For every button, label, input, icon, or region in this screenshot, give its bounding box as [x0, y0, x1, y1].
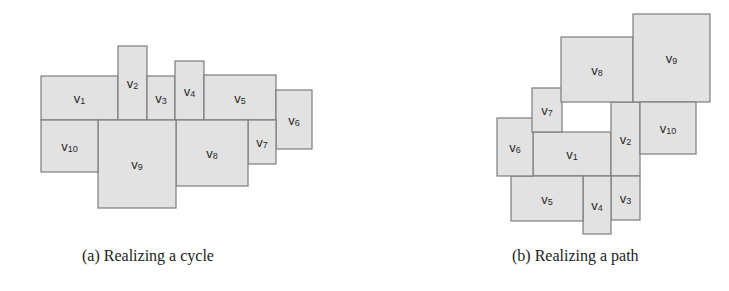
vertex-rect-v2: v2 — [118, 46, 147, 120]
vertex-rect-v4: v4 — [583, 176, 611, 234]
vertex-rect-v9: v9 — [633, 14, 710, 102]
vertex-rect-v6: v6 — [276, 90, 312, 149]
vertex-rect-v7: v7 — [248, 120, 276, 164]
vertex-rect-v3: v3 — [611, 176, 640, 220]
figure-a-cycle: v1v2v3v4v5v6v7v8v9v10 — [41, 46, 312, 208]
vertex-rect-v9: v9 — [98, 120, 176, 208]
vertex-rect-v6: v6 — [497, 118, 533, 176]
vertex-rect-v3: v3 — [147, 76, 175, 120]
vertex-rect-v5: v5 — [204, 75, 276, 120]
vertex-rect-v1: v1 — [533, 132, 611, 176]
vertex-rect-v8: v8 — [176, 120, 248, 186]
vertex-rect-v5: v5 — [511, 176, 583, 221]
figure-b-path: v1v2v3v4v5v6v7v8v9v10 — [497, 14, 710, 234]
vertex-rect-v7: v7 — [532, 88, 562, 132]
caption-a: (a) Realizing a cycle — [82, 247, 214, 265]
vertex-rect-v1: v1 — [41, 76, 118, 120]
vertex-rect-v10: v10 — [640, 102, 696, 154]
vertex-rect-v8: v8 — [561, 37, 633, 102]
vertex-rect-v2: v2 — [611, 102, 640, 176]
vertex-rect-v10: v10 — [41, 120, 98, 172]
caption-b: (b) Realizing a path — [512, 247, 639, 265]
vertex-rect-v4: v4 — [175, 61, 204, 120]
